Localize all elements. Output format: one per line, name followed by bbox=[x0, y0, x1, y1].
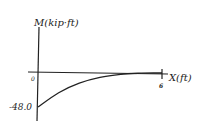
y-min-label: -48.0 bbox=[9, 103, 32, 112]
x-axis-label: X(ft) bbox=[169, 73, 192, 83]
moment-curve bbox=[38, 73, 162, 107]
origin-label: 0 bbox=[31, 76, 35, 82]
y-axis-label: M(kip·ft) bbox=[34, 18, 79, 28]
moment-diagram: M(kip·ft) X(ft) 0 6 -48.0 bbox=[0, 0, 206, 130]
x-tick-label: 6 bbox=[159, 83, 163, 89]
